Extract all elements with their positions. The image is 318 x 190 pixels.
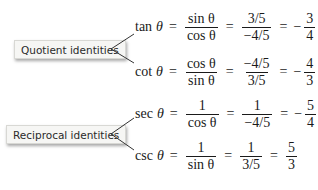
- cot-identity-equation: cot θ = cos θsin θ = −4/53/5 = − 43: [135, 54, 317, 90]
- equals-sign: =: [279, 64, 287, 80]
- equals-sign: =: [280, 106, 288, 122]
- function-name: csc: [135, 148, 153, 164]
- ratio-fraction: sin θcos θ: [185, 12, 218, 43]
- equals-sign: =: [170, 106, 178, 122]
- result-fraction: 43: [304, 57, 315, 88]
- function-name: sec: [135, 106, 153, 122]
- value-fraction: 3/5−4/5: [242, 12, 272, 43]
- equals-sign: =: [169, 19, 177, 35]
- sec-identity-equation: sec θ = 1cos θ = 1−4/5 = − 54: [135, 96, 318, 132]
- equals-sign: =: [224, 148, 232, 164]
- ratio-fraction: cos θsin θ: [185, 57, 218, 88]
- ratio-fraction: 1sin θ: [186, 141, 217, 172]
- function-name: cot: [135, 64, 152, 80]
- equals-sign: =: [226, 19, 234, 35]
- equals-sign: =: [227, 106, 235, 122]
- equals-sign: =: [270, 148, 278, 164]
- minus-sign: −: [293, 64, 301, 80]
- equals-sign: =: [279, 19, 287, 35]
- equals-sign: =: [169, 64, 177, 80]
- equals-sign: =: [170, 148, 178, 164]
- value-fraction: 13/5: [240, 141, 262, 172]
- theta-symbol: θ: [157, 148, 164, 164]
- theta-symbol: θ: [156, 64, 163, 80]
- value-fraction: −4/53/5: [242, 57, 272, 88]
- ratio-fraction: 1cos θ: [186, 99, 219, 130]
- equals-sign: =: [226, 64, 234, 80]
- result-fraction: 54: [305, 99, 316, 130]
- function-name: tan: [135, 19, 152, 35]
- minus-sign: −: [293, 19, 301, 35]
- minus-sign: −: [294, 106, 302, 122]
- theta-symbol: θ: [157, 106, 164, 122]
- result-fraction: 53: [286, 141, 297, 172]
- value-fraction: 1−4/5: [242, 99, 272, 130]
- result-fraction: 34: [304, 12, 315, 43]
- tan-identity-equation: tan θ = sin θcos θ = 3/5−4/5 = − 34: [135, 9, 317, 45]
- theta-symbol: θ: [156, 19, 163, 35]
- csc-identity-equation: csc θ = 1sin θ = 13/5 = 53: [135, 138, 299, 174]
